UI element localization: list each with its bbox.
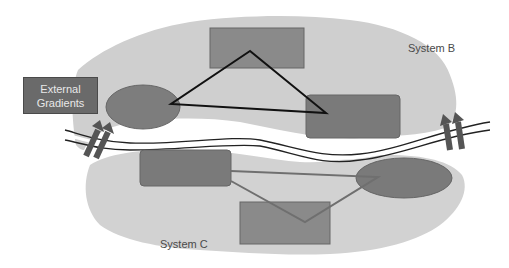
external-gradients-box: External Gradients bbox=[23, 77, 98, 114]
system-c-label: System C bbox=[160, 238, 208, 250]
system-c-rect-bottom bbox=[240, 202, 330, 244]
external-gradients-line1: External bbox=[37, 82, 85, 96]
system-c-rect-left bbox=[140, 150, 231, 186]
system-c-ellipse bbox=[356, 158, 452, 198]
system-b-rect-top bbox=[210, 28, 304, 68]
system-b-ellipse bbox=[106, 85, 180, 129]
system-b-rect-right bbox=[306, 95, 400, 138]
external-gradients-line2: Gradients bbox=[37, 96, 85, 110]
system-b-label: System B bbox=[408, 42, 455, 54]
diagram-canvas bbox=[0, 0, 509, 268]
